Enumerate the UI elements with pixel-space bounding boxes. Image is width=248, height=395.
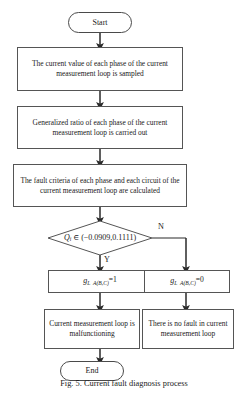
figure-caption: Fig. 5. Current fault diagnosis process — [0, 378, 248, 389]
node-loop-malfunctioning[interactable]: Current measurement loop is malfunctioni… — [44, 309, 140, 349]
node-start-label: Start — [69, 18, 131, 28]
node-fault-criteria[interactable]: The fault criteria of each phase and eac… — [13, 164, 187, 207]
branch-label-yes: Y — [104, 255, 110, 264]
node-sample-current-label: The current value of each phase of the c… — [20, 59, 180, 78]
node-loop-malfunctioning-label: Current measurement loop is malfunctioni… — [47, 319, 137, 338]
node-decision-formula: Qi ∈ (−0.0909,0.1111) — [64, 233, 136, 242]
node-no-fault[interactable]: There is no fault in current measurement… — [142, 309, 234, 349]
node-set-g-zero[interactable]: gL A(B,C)=0 — [144, 270, 230, 293]
node-set-g-one-formula: gL A(B,C)=1 — [83, 275, 117, 288]
branch-label-no: N — [158, 222, 164, 231]
node-sample-current[interactable]: The current value of each phase of the c… — [17, 47, 183, 91]
node-start[interactable]: Start — [68, 12, 132, 33]
node-end-label: End — [61, 366, 123, 376]
node-set-g-one[interactable]: gL A(B,C)=1 — [48, 270, 152, 293]
node-generalized-ratio-label: Generalized ratio of each phase of the c… — [20, 118, 180, 137]
node-fault-criteria-label: The fault criteria of each phase and eac… — [16, 176, 184, 195]
node-decision-criterion[interactable]: Qi ∈ (−0.0909,0.1111) — [52, 233, 148, 242]
node-generalized-ratio[interactable]: Generalized ratio of each phase of the c… — [17, 106, 183, 149]
node-no-fault-label: There is no fault in current measurement… — [145, 319, 231, 338]
node-set-g-zero-formula: gL A(B,C)=0 — [170, 275, 204, 288]
